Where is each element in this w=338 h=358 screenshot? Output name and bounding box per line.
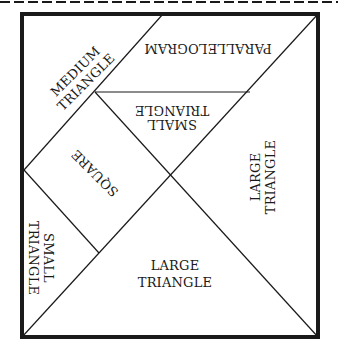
secondary-diagonal <box>95 92 318 337</box>
small-triangle-left-label: SMALL TRIANGLE <box>26 221 56 295</box>
small-triangle-left-line2: TRIANGLE <box>26 221 41 295</box>
parallelogram-label: PARALLELOGRAM <box>144 41 272 56</box>
large-triangle-bottom-line2: TRIANGLE <box>138 275 212 290</box>
large-triangle-right-line2: TRIANGLE <box>263 140 278 214</box>
large-triangle-right-label: LARGE TRIANGLE <box>248 140 278 214</box>
small-triangle-left-line1: SMALL <box>41 233 56 283</box>
parallelogram-text: PARALLELOGRAM <box>144 41 272 56</box>
large-triangle-right-line1: LARGE <box>248 153 263 202</box>
small-triangle-top-label: SMALL TRIANGLE <box>135 103 209 132</box>
square-text: SQUARE <box>68 147 121 200</box>
large-triangle-bottom-line1: LARGE <box>151 258 200 273</box>
small-triangle-top-line2: TRIANGLE <box>135 103 209 118</box>
square-label: SQUARE <box>68 147 121 200</box>
tangram-diagram: MEDIUM TRIANGLE PARALLELOGRAM SMALL TRIA… <box>0 0 338 358</box>
small-triangle-top-line1: SMALL <box>147 117 197 132</box>
large-triangle-bottom-label: LARGE TRIANGLE <box>138 258 212 290</box>
